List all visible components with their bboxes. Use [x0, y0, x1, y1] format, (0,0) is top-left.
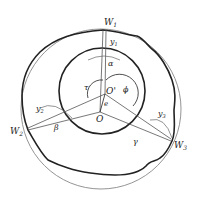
- label-w3: W3: [174, 140, 187, 151]
- label-y1: y1: [109, 37, 118, 47]
- label-e: e: [104, 100, 108, 108]
- diagram-svg: W1 W2 W3 O O' e y1 y2 y3 α β γ τ ϕ: [0, 0, 198, 203]
- label-beta: β: [53, 123, 59, 132]
- label-alpha: α: [108, 59, 114, 68]
- line-oprime-w1: [105, 30, 106, 94]
- label-phi: ϕ: [123, 85, 129, 94]
- diagram-canvas: W1 W2 W3 O O' e y1 y2 y3 α β γ τ ϕ: [0, 0, 198, 203]
- label-gamma: γ: [133, 137, 138, 146]
- label-tau: τ: [84, 83, 89, 92]
- label-y2: y2: [35, 104, 44, 114]
- label-oprime: O': [106, 86, 116, 96]
- label-y3: y3: [157, 109, 166, 119]
- label-o: O: [96, 114, 104, 124]
- label-w1: W1: [104, 17, 117, 28]
- label-w2: W2: [10, 126, 23, 137]
- arc-w1: [88, 56, 120, 60]
- arc-w3: [150, 119, 172, 138]
- line-o-w1: [100, 30, 103, 112]
- line-o-w2: [28, 112, 100, 130]
